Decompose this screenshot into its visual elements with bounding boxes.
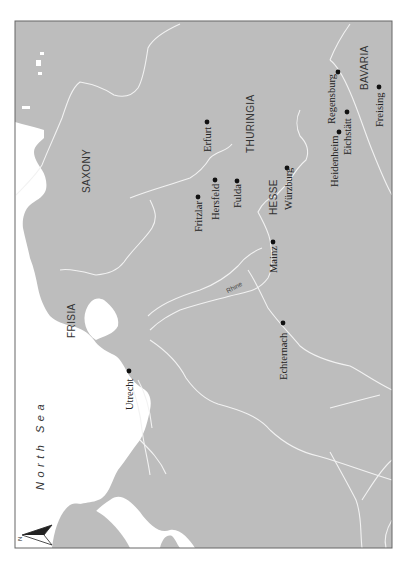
region-thuringia: THURINGIA [245,94,256,153]
region-frisia: FRISIA [66,303,77,338]
city-erfurt: Erfurt [202,127,213,152]
city-wurzburg: Würzburg [283,168,294,210]
map-canvas [0,0,412,563]
city-eichstatt: Eichstätt [342,118,353,155]
city-regensburg: Regensburg [326,74,337,124]
dot-echternach [281,321,286,326]
city-fulda: Fulda [232,184,243,208]
region-hesse: HESSE [268,179,279,215]
dot-hersfeld [213,178,218,183]
north-sea-label: North Sea [34,400,46,490]
city-mainz: Mainz [268,246,279,273]
dot-mainz [271,240,276,245]
city-fritzlar: Fritzlar [193,201,204,232]
dot-utrecht [127,369,132,374]
dot-freising [377,85,382,90]
region-bavaria: BAVARIA [359,45,370,90]
city-echternach: Echternach [278,333,289,380]
dot-eichstatt [345,110,350,115]
dot-fritzlar [196,195,201,200]
city-hersfeld: Hersfeld [210,184,221,220]
city-utrecht: Utrecht [124,379,135,411]
city-freising: Freising [374,93,385,127]
dot-heidenheim [337,130,342,135]
compass-label: N [17,537,23,541]
dot-erfurt [205,120,210,125]
dot-fulda [235,179,240,184]
city-heidenheim: Heidenheim [329,136,340,187]
region-saxony: SAXONY [81,149,92,193]
